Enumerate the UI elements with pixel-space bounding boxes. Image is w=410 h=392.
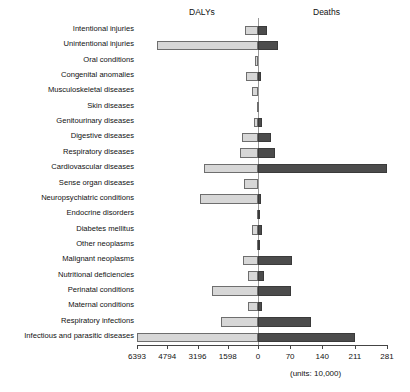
deaths-bar <box>258 256 292 266</box>
deaths-bar <box>258 41 278 51</box>
chart-row: Maternal conditions <box>0 298 410 314</box>
chart-row: Genitourinary diseases <box>0 114 410 130</box>
axis-tick <box>137 345 138 349</box>
dalys-bar <box>157 41 258 51</box>
axis-tick-label: 281 <box>380 352 393 361</box>
axis-tick <box>322 345 323 349</box>
dalys-bar <box>221 317 258 327</box>
chart-row: Congenital anomalies <box>0 68 410 84</box>
axis-tick-label: 6393 <box>128 352 146 361</box>
chart-row: Musculoskeletal diseases <box>0 83 410 99</box>
row-label: Cardiovascular diseases <box>51 162 134 172</box>
axis-tick <box>167 345 168 349</box>
chart-row: Infectious and parasitic diseases <box>0 329 410 345</box>
row-label: Genitourinary diseases <box>56 116 134 126</box>
row-label: Endocrine disorders <box>66 208 134 218</box>
deaths-bar <box>258 26 267 36</box>
axis-tick <box>258 345 259 349</box>
row-label: Maternal conditions <box>68 300 134 310</box>
axis-tick-label: 1598 <box>219 352 237 361</box>
chart-row: Unintentional injuries <box>0 37 410 53</box>
dalys-bar <box>242 133 258 143</box>
deaths-bar <box>258 286 291 296</box>
chart-row: Cardiovascular diseases <box>0 160 410 176</box>
deaths-bar <box>258 333 355 343</box>
chart-row: Skin diseases <box>0 99 410 115</box>
axis-tick <box>228 345 229 349</box>
row-label: Neuropsychiatric conditions <box>41 193 134 203</box>
chart-row: Sense organ diseases <box>0 176 410 192</box>
dalys-bar <box>245 26 258 36</box>
chart-row: Neuropsychiatric conditions <box>0 191 410 207</box>
dalys-bar <box>248 302 258 312</box>
axis-tick-label: 70 <box>286 352 295 361</box>
chart-row: Nutritional deficiencies <box>0 268 410 284</box>
chart-row: Respiratory diseases <box>0 145 410 161</box>
units-note: (units: 10,000) <box>290 369 341 378</box>
dalys-bar <box>244 179 258 189</box>
row-label: Musculoskeletal diseases <box>48 85 134 95</box>
chart-row: Intentional injuries <box>0 22 410 38</box>
deaths-bar <box>258 271 264 281</box>
row-label: Nutritional deficiencies <box>58 270 134 280</box>
deaths-bar <box>258 317 311 327</box>
axis-tick-label: 140 <box>316 352 329 361</box>
row-label: Infectious and parasitic diseases <box>24 331 134 341</box>
chart-row: Respiratory infections <box>0 314 410 330</box>
chart-row: Perinatal conditions <box>0 283 410 299</box>
row-label: Intentional injuries <box>73 24 134 34</box>
deaths-bar <box>258 148 275 158</box>
deaths-bar <box>258 118 262 128</box>
row-label: Respiratory diseases <box>63 147 134 157</box>
deaths-bar <box>258 133 271 143</box>
row-label: Respiratory infections <box>61 316 134 326</box>
dalys-bar <box>212 286 258 296</box>
row-label: Sense organ diseases <box>59 178 134 188</box>
axis-tick <box>387 345 388 349</box>
deaths-column-header: Deaths <box>313 7 340 17</box>
dalys-bar <box>240 148 258 158</box>
chart-row: Malignant neoplasms <box>0 252 410 268</box>
dalys-deaths-diverging-bar-chart: DALYs Deaths Intentional injuriesUninten… <box>0 0 410 392</box>
deaths-bar <box>258 225 262 235</box>
dalys-bar <box>252 87 258 97</box>
dalys-column-header: DALYs <box>189 7 215 17</box>
dalys-bar <box>204 164 258 174</box>
axis-tick-label: 4794 <box>158 352 176 361</box>
axis-tick <box>290 345 291 349</box>
row-label: Malignant neoplasms <box>62 254 134 264</box>
x-axis-line <box>137 345 387 346</box>
dalys-bar <box>200 194 258 204</box>
axis-tick-label: 3196 <box>189 352 207 361</box>
chart-row: Other neoplasms <box>0 237 410 253</box>
row-label: Congenital anomalies <box>61 70 134 80</box>
dalys-bar <box>243 256 258 266</box>
deaths-bar <box>258 194 261 204</box>
row-label: Other neoplasms <box>76 239 134 249</box>
dalys-bar <box>137 333 258 343</box>
deaths-bar <box>258 164 387 174</box>
row-label: Skin diseases <box>87 101 134 111</box>
row-label: Unintentional injuries <box>64 39 135 49</box>
axis-tick <box>198 345 199 349</box>
row-label: Digestive diseases <box>71 131 134 141</box>
deaths-bar <box>258 240 260 250</box>
row-label: Perinatal conditions <box>68 285 134 295</box>
chart-row: Endocrine disorders <box>0 206 410 222</box>
chart-row: Diabetes mellitus <box>0 222 410 238</box>
dalys-bar <box>255 56 258 66</box>
dalys-bar <box>246 72 258 82</box>
dalys-bar <box>248 271 258 281</box>
row-label: Diabetes mellitus <box>76 224 134 234</box>
chart-row: Oral conditions <box>0 53 410 69</box>
deaths-bar <box>258 302 262 312</box>
row-label: Oral conditions <box>83 55 134 65</box>
axis-tick-label: 0 <box>256 352 260 361</box>
dalys-bar <box>257 102 259 112</box>
deaths-bar <box>258 210 260 220</box>
axis-tick <box>355 345 356 349</box>
chart-row: Digestive diseases <box>0 129 410 145</box>
axis-tick-label: 211 <box>348 352 361 361</box>
deaths-bar <box>258 72 261 82</box>
